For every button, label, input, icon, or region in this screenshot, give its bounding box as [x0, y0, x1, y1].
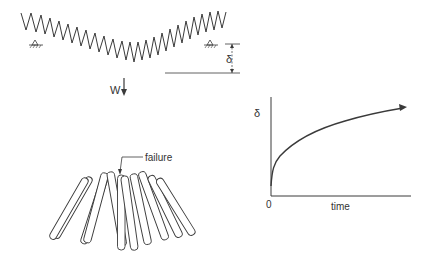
right-support-icon: [204, 40, 218, 48]
coil-failure-detail: [48, 171, 196, 251]
failure-leader-line: [118, 157, 143, 175]
origin-label: 0: [266, 199, 272, 210]
creep-curve: [271, 108, 403, 186]
creep-chart: [271, 97, 411, 196]
failure-label: failure: [145, 152, 173, 163]
deflection-label: δ: [226, 53, 232, 65]
figure-canvas: δ W failure δ 0 time: [0, 0, 428, 255]
x-axis-label: time: [331, 201, 350, 212]
left-support-icon: [29, 40, 43, 48]
curve-arrowhead-icon: [399, 104, 407, 111]
y-axis-label: δ: [254, 107, 260, 119]
load-label: W: [110, 84, 121, 96]
sagging-spring: [21, 11, 226, 62]
load-arrow-icon: [121, 78, 127, 96]
